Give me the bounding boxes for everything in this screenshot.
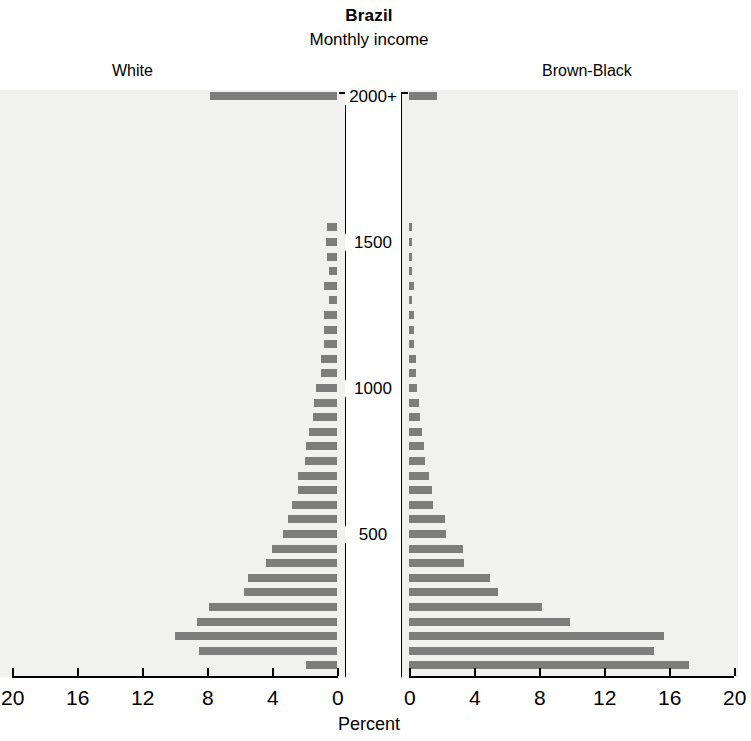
axis-tick bbox=[272, 668, 274, 676]
axis-tick bbox=[207, 668, 209, 676]
axis-tick bbox=[142, 668, 144, 676]
axis-tick-label: 8 bbox=[188, 686, 228, 710]
axis-tick bbox=[669, 668, 671, 676]
axis-tick-label: 0 bbox=[318, 686, 358, 710]
axis-tick-label: 12 bbox=[123, 686, 163, 710]
x-axis-title: Percent bbox=[0, 714, 738, 735]
axis-tick-label: 16 bbox=[58, 686, 98, 710]
axis-tick-label: 16 bbox=[650, 686, 690, 710]
axis-tick bbox=[474, 668, 476, 676]
axis-tick bbox=[734, 668, 736, 676]
axis-tick-label: 0 bbox=[390, 686, 430, 710]
axis-tick-label: 8 bbox=[520, 686, 560, 710]
axis-tick-label: 4 bbox=[253, 686, 293, 710]
axis-tick bbox=[409, 668, 411, 676]
axis-tick bbox=[12, 668, 14, 676]
axis-tick-label: 20 bbox=[715, 686, 751, 710]
axis-tick-label: 4 bbox=[455, 686, 495, 710]
axis-tick-label: 20 bbox=[0, 686, 33, 710]
axis-tick bbox=[77, 668, 79, 676]
axis-tick-label: 12 bbox=[585, 686, 625, 710]
axis-tick bbox=[337, 668, 339, 676]
axis-tick bbox=[539, 668, 541, 676]
axis-tick bbox=[604, 668, 606, 676]
